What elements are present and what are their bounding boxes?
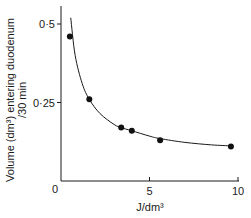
data-point (129, 128, 135, 134)
y-tick-label: 0·5 (39, 18, 55, 30)
data-point (118, 125, 124, 131)
data-point (157, 137, 163, 143)
y-tick-label: 0·25 (33, 97, 55, 109)
chart: 05100·250·5 J/dm³ Volume (dm³) entering … (0, 0, 251, 218)
x-tick-label: 5 (146, 185, 152, 197)
y-axis-label: Volume (dm³) entering duodenum (4, 18, 16, 182)
fit-curve (71, 18, 231, 146)
x-axis-label: J/dm³ (136, 201, 164, 213)
data-point (228, 143, 234, 149)
x-tick-label: 0 (52, 183, 58, 195)
y-axis-label-line2: /30 min (16, 82, 28, 118)
x-tick-label: 10 (232, 185, 244, 197)
data-point (67, 34, 73, 40)
data-point (86, 96, 92, 102)
